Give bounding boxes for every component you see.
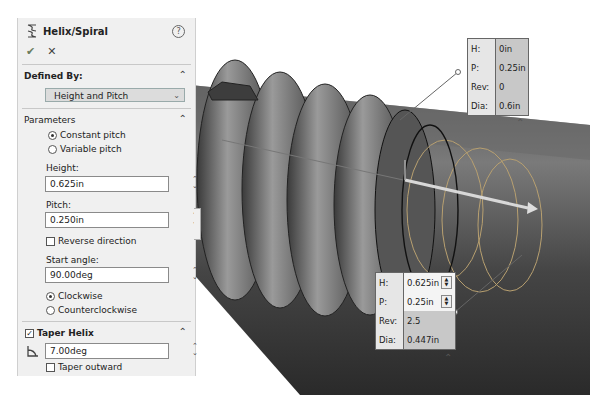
panel-title: Helix/Spiral <box>26 24 108 38</box>
taper-angle-icon <box>26 344 40 358</box>
helix-start-callout: H:0in P:0.25in Rev:0 Dia:0.6in <box>467 38 529 116</box>
help-icon[interactable]: ? <box>172 25 185 38</box>
pitch-input[interactable]: 0.250in <box>45 212 169 228</box>
radio-icon <box>46 292 55 301</box>
helix-icon <box>26 24 38 38</box>
callout-row-pitch: P:0.25in <box>468 58 528 77</box>
checkbox-icon <box>46 363 55 372</box>
callout-row-revolutions: Rev:2.5 <box>376 311 455 330</box>
callout-row-height: H:0in <box>468 39 528 58</box>
collapse-taper-icon[interactable]: ⌃ <box>179 326 187 337</box>
start-angle-label: Start angle: <box>46 255 99 265</box>
callout-key: Rev: <box>468 77 496 96</box>
checkbox-checked-icon: ✓ <box>25 329 34 338</box>
callout-value-editable[interactable]: 0.625in▲▼ <box>404 273 455 292</box>
checkbox-label: Taper outward <box>58 362 122 372</box>
callout-key: Rev: <box>376 311 404 330</box>
taper-helix-checkbox[interactable]: ✓ Taper Helix <box>25 328 94 338</box>
callout-row-revolutions: Rev:0 <box>468 77 528 96</box>
radio-clockwise[interactable]: Clockwise <box>46 291 103 301</box>
callout-row-diameter: Dia:0.447in <box>376 330 455 349</box>
stepper-icon[interactable]: ▲▼ <box>441 276 452 289</box>
callout-key: H: <box>468 39 496 58</box>
collapse-defined-by-icon[interactable]: ⌃ <box>179 69 187 80</box>
reverse-direction-checkbox[interactable]: Reverse direction <box>46 236 136 246</box>
callout-key: Dia: <box>468 96 496 115</box>
ok-button[interactable]: ✔ <box>26 45 35 58</box>
height-spinner[interactable]: ⌃⌄ <box>191 176 199 190</box>
callout-value: 0.25in <box>496 58 528 77</box>
pitch-label: Pitch: <box>46 200 71 210</box>
callout-key: P: <box>376 292 404 311</box>
radio-icon <box>48 145 57 154</box>
defined-by-header: Defined By: <box>24 71 83 81</box>
radio-counterclockwise[interactable]: Counterclockwise <box>46 305 137 315</box>
callout-value-editable[interactable]: 0.25in▲▼ <box>404 292 455 311</box>
callout-key: Dia: <box>376 330 404 349</box>
radio-icon <box>46 306 55 315</box>
taper-angle-spinner[interactable]: ⌃⌄ <box>191 343 199 357</box>
checkbox-label: Reverse direction <box>58 236 136 246</box>
defined-by-value: Height and Pitch <box>54 91 128 101</box>
callout-row-height: H:0.625in▲▼ <box>376 273 455 292</box>
parameters-header: Parameters <box>24 115 76 125</box>
callout-value: 2.5 <box>404 311 455 330</box>
callout-value: 0.625in <box>407 278 439 288</box>
height-label: Height: <box>46 163 79 173</box>
stepper-icon[interactable]: ▲▼ <box>441 295 452 308</box>
radio-label: Variable pitch <box>60 144 122 154</box>
radio-variable-pitch[interactable]: Variable pitch <box>48 144 122 154</box>
callout-key: P: <box>468 58 496 77</box>
collapse-parameters-icon[interactable]: ⌃ <box>179 113 187 124</box>
callout-value: 0.6in <box>496 96 528 115</box>
defined-by-select[interactable]: Height and Pitch ⌄ <box>45 88 185 102</box>
helix-property-manager: Helix/Spiral ? ✔ ✕ Defined By: ⌃ Height … <box>17 18 196 376</box>
collapse-callout-icon[interactable]: ⌃ <box>444 352 452 363</box>
chevron-down-icon: ⌄ <box>173 89 180 103</box>
checkbox-label: Taper Helix <box>37 328 94 338</box>
radio-constant-pitch[interactable]: Constant pitch <box>48 130 126 140</box>
helix-end-callout: H:0.625in▲▼ P:0.25in▲▼ Rev:2.5 Dia:0.447… <box>375 272 456 350</box>
radio-label: Clockwise <box>58 291 103 301</box>
radio-icon <box>48 131 57 140</box>
radio-label: Constant pitch <box>60 130 126 140</box>
callout-row-pitch: P:0.25in▲▼ <box>376 292 455 311</box>
start-angle-spinner[interactable]: ⌃⌄ <box>191 267 199 281</box>
callout-row-diameter: Dia:0.6in <box>468 96 528 115</box>
callout-value: 0in <box>496 39 528 58</box>
height-input[interactable]: 0.625in <box>45 176 169 192</box>
panel-title-text: Helix/Spiral <box>43 26 108 37</box>
callout-key: H: <box>376 273 404 292</box>
taper-angle-input[interactable]: 7.00deg <box>45 343 169 359</box>
radio-label: Counterclockwise <box>58 305 137 315</box>
cancel-button[interactable]: ✕ <box>47 45 56 58</box>
callout-value: 0.25in <box>407 297 434 307</box>
callout-value: 0.447in <box>404 330 455 349</box>
start-angle-input[interactable]: 90.00deg <box>45 267 169 283</box>
taper-outward-checkbox[interactable]: Taper outward <box>46 362 122 372</box>
collapse-callout-icon[interactable]: ⌃ <box>516 117 524 128</box>
callout-value: 0 <box>496 77 528 96</box>
panel-resize-handle[interactable] <box>194 208 201 240</box>
checkbox-icon <box>46 237 55 246</box>
